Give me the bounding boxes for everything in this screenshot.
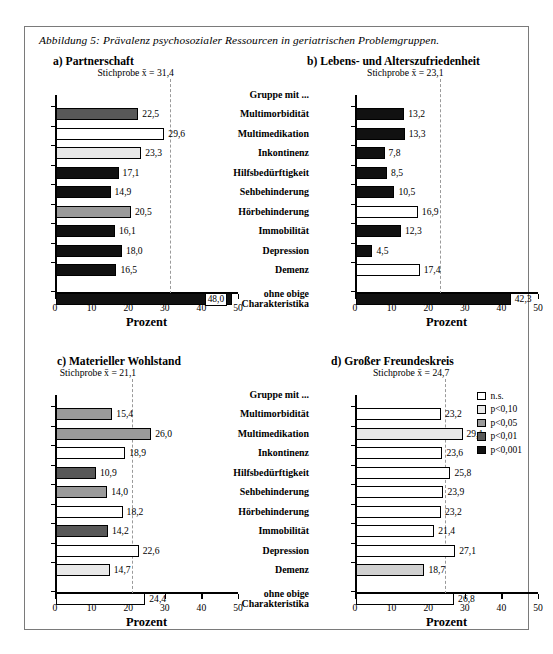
x-tick	[238, 294, 239, 299]
row-label: Multimorbidität	[240, 409, 309, 420]
bar	[56, 206, 131, 218]
bar-value-label: 23,9	[447, 486, 464, 498]
sample-mean-line	[440, 79, 441, 294]
y-tick	[51, 243, 55, 244]
y-tick	[51, 523, 55, 524]
bar	[356, 545, 455, 557]
bar-value-label: 26,0	[155, 428, 172, 440]
y-tick	[351, 126, 355, 127]
legend-item: p<0,01	[477, 430, 522, 444]
row-label-column: Gruppe mit ...MultimorbiditätMultimedika…	[223, 395, 309, 594]
sample-mean-label: Stichprobe x̄ = 31,4	[97, 67, 174, 78]
bar-value-label: 25,8	[454, 467, 471, 479]
sample-mean-label: Stichprobe x̄ = 24,7	[373, 367, 450, 378]
bar	[56, 245, 122, 257]
y-tick	[351, 543, 355, 544]
y-tick	[51, 184, 55, 185]
y-tick	[351, 445, 355, 446]
plot-area-a: 01020304050ProzentStichprobe x̄ = 31,422…	[55, 95, 238, 294]
sample-mean-label: Stichprobe x̄ = 23,1	[367, 67, 444, 78]
sample-mean-label: Stichprobe x̄ = 21,1	[60, 367, 137, 378]
y-tick	[351, 426, 355, 427]
bar	[356, 245, 372, 257]
bar	[56, 486, 107, 498]
bar	[356, 264, 420, 276]
row-label: Multimorbidität	[240, 109, 309, 120]
bar	[56, 564, 110, 576]
bar-value-label: 16,5	[120, 264, 137, 276]
bar-value-label: 17,4	[424, 264, 441, 276]
legend-swatch	[477, 432, 486, 441]
bar	[56, 545, 139, 557]
x-tick	[538, 294, 539, 299]
row-label-header: Gruppe mit ...	[249, 389, 309, 400]
bar-value-label: 23,2	[445, 408, 462, 420]
row-label: Multimedikation	[238, 128, 309, 139]
y-tick	[51, 145, 55, 146]
bar	[56, 264, 116, 276]
y-tick	[351, 165, 355, 166]
legend-swatch	[477, 419, 486, 428]
bar-value-label: 10,5	[398, 186, 415, 198]
figure-caption: Abbildung 5: Prävalenz psychosozialer Re…	[39, 34, 439, 46]
y-tick	[51, 465, 55, 466]
row-label: Sehbehinderung	[240, 487, 309, 498]
y-tick	[51, 591, 55, 592]
bar	[56, 467, 96, 479]
bar	[56, 186, 111, 198]
bar	[356, 186, 394, 198]
bar-value-label: 16,9	[422, 206, 439, 218]
legend-label: p<0,05	[491, 418, 518, 428]
bar	[356, 564, 424, 576]
bar	[56, 447, 125, 459]
bar	[56, 225, 115, 237]
bar-value-label: 26,8	[458, 593, 475, 605]
x-axis-title: Prozent	[126, 315, 167, 330]
x-tick-label: 50	[533, 302, 543, 313]
bar-value-label: 13,2	[408, 108, 425, 120]
bar	[356, 593, 454, 605]
row-label: ohne obigeCharakteristika	[242, 288, 309, 309]
y-tick	[351, 223, 355, 224]
row-label: Immobilität	[259, 226, 309, 237]
legend-item: p<0,10	[477, 403, 522, 417]
bar-value-label: 15,4	[116, 408, 133, 420]
bar	[356, 147, 385, 159]
legend-swatch	[477, 392, 486, 401]
x-axis-title: Prozent	[126, 615, 167, 630]
legend-label: n.s.	[491, 391, 504, 401]
y-tick	[51, 126, 55, 127]
bar	[356, 225, 401, 237]
plot-area-c: 01020304050ProzentStichprobe x̄ = 21,115…	[55, 395, 238, 594]
row-label: Multimedikation	[238, 428, 309, 439]
y-tick	[351, 406, 355, 407]
bar-value-label: 7,8	[389, 147, 401, 159]
bar	[356, 447, 442, 459]
row-label: ohne obigeCharakteristika	[242, 588, 309, 609]
y-tick	[351, 243, 355, 244]
bar	[356, 293, 511, 305]
y-tick	[351, 465, 355, 466]
x-tick	[501, 594, 502, 599]
bar-value-label: 18,0	[126, 245, 143, 257]
legend-item: p<0,001	[477, 443, 522, 457]
bar	[56, 408, 112, 420]
bar	[356, 128, 405, 140]
row-label-column: Gruppe mit ...MultimorbiditätMultimedika…	[223, 95, 309, 294]
bar-value-label: 17,1	[123, 167, 140, 179]
figure-frame: Abbildung 5: Prävalenz psychosozialer Re…	[24, 26, 529, 630]
y-tick	[51, 484, 55, 485]
bar-value-label: 22,5	[142, 108, 159, 120]
y-tick	[51, 543, 55, 544]
y-tick	[351, 591, 355, 592]
y-tick	[351, 504, 355, 505]
bar	[56, 167, 119, 179]
significance-legend: n.s.p<0,10p<0,05p<0,01p<0,001	[477, 389, 522, 457]
row-label: Inkontinenz	[258, 148, 309, 159]
legend-item: p<0,05	[477, 416, 522, 430]
bar-value-label: 24,4	[149, 593, 166, 605]
y-tick	[51, 406, 55, 407]
bar-value-label: 42,3	[515, 293, 532, 305]
bar-value-label: 21,4	[438, 525, 455, 537]
bar	[356, 408, 441, 420]
